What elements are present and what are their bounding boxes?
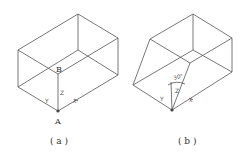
box-figure-b: 30° Y Z X ( b ) (133, 14, 232, 146)
box-b-edge-y (133, 85, 172, 110)
y-axis-label: Y (159, 95, 164, 102)
point-b-label: B (56, 65, 62, 74)
caption-a: ( a ) (50, 136, 68, 146)
box-b-edge (193, 50, 232, 72)
box-b-edge (133, 39, 150, 85)
box-a-top-face (18, 14, 118, 74)
y-axis-label: Y (44, 97, 49, 104)
z-axis-line (171, 82, 172, 110)
origin-point-a (56, 109, 59, 112)
box-a-edge-y (18, 87, 58, 111)
x-axis-label: X (189, 97, 193, 103)
diagram-canvas: B A Y Z X ( a ) 30° Y Z X ( b ) (0, 0, 245, 155)
box-a-edge-x (58, 75, 118, 111)
box-b-top-face (150, 14, 232, 63)
z-axis-label: Z (60, 89, 64, 96)
angle-label: 30° (173, 73, 184, 81)
box-figure-a: B A Y Z X ( a ) (18, 14, 118, 146)
point-a-label: A (54, 117, 61, 126)
caption-b: ( b ) (178, 136, 197, 146)
box-a-edge (78, 50, 118, 75)
z-axis-label: Z (175, 87, 179, 94)
x-axis-label: X (73, 98, 77, 104)
origin-point-b (170, 108, 173, 111)
